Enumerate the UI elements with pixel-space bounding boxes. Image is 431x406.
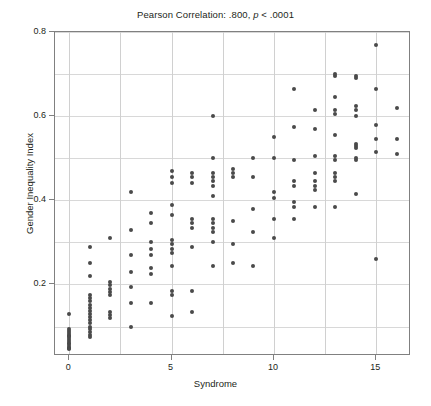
plot-area <box>54 31 410 355</box>
data-point <box>129 325 133 329</box>
data-point <box>88 261 92 265</box>
gridline-horizontal <box>55 32 409 33</box>
scatter-plot-figure: Pearson Correlation: .800, p < .0001 0.2… <box>0 0 431 406</box>
x-axis-tick-label: 0 <box>48 362 88 372</box>
data-point <box>333 74 337 78</box>
data-point <box>190 175 194 179</box>
data-point <box>67 312 71 316</box>
data-point <box>374 257 378 261</box>
data-point <box>170 175 174 179</box>
data-point <box>395 137 399 141</box>
data-point <box>333 158 337 162</box>
data-point <box>88 274 92 278</box>
data-point <box>251 175 255 179</box>
data-point <box>211 221 215 225</box>
data-point <box>211 179 215 183</box>
data-point <box>374 150 378 154</box>
data-point <box>170 213 174 217</box>
data-point <box>354 114 358 118</box>
data-point <box>129 190 133 194</box>
gridline-horizontal <box>55 327 409 328</box>
data-point <box>354 192 358 196</box>
data-point <box>292 87 296 91</box>
data-point <box>292 158 296 162</box>
data-point <box>149 272 153 276</box>
data-point <box>129 253 133 257</box>
data-point <box>313 127 317 131</box>
data-point <box>108 236 112 240</box>
data-point <box>354 158 358 162</box>
data-point <box>211 230 215 234</box>
data-point <box>129 285 133 289</box>
data-point <box>333 205 337 209</box>
data-point <box>292 200 296 204</box>
data-point <box>272 217 276 221</box>
data-point <box>374 123 378 127</box>
gridline-vertical <box>376 32 377 354</box>
data-point <box>272 135 276 139</box>
data-point <box>190 289 194 293</box>
data-point <box>190 226 194 230</box>
data-point <box>231 242 235 246</box>
data-point <box>354 146 358 150</box>
y-axis-tick-label: 0.8 <box>0 26 46 36</box>
x-axis-tick <box>68 355 69 360</box>
data-point <box>190 245 194 249</box>
data-point <box>88 335 92 339</box>
data-point <box>313 179 317 183</box>
gridline-horizontal <box>55 200 409 201</box>
data-point <box>149 253 153 257</box>
caption-text <box>0 399 431 406</box>
data-point <box>292 125 296 129</box>
gridline-vertical <box>223 32 224 354</box>
data-point <box>88 245 92 249</box>
data-point <box>149 301 153 305</box>
data-point <box>313 154 317 158</box>
x-axis-tick-label: 10 <box>253 362 293 372</box>
x-axis-tick <box>273 355 274 360</box>
y-axis-tick <box>49 283 54 284</box>
data-point <box>149 221 153 225</box>
x-axis-tick-label: 5 <box>151 362 191 372</box>
data-point <box>292 205 296 209</box>
data-point <box>108 316 112 320</box>
chart-title-prefix: Pearson Correlation: .800, <box>137 9 253 20</box>
data-point <box>149 240 153 244</box>
data-point <box>129 270 133 274</box>
figure-caption-sliver <box>0 399 431 406</box>
x-axis-tick <box>171 355 172 360</box>
data-point <box>170 293 174 297</box>
data-point <box>292 217 296 221</box>
data-point <box>374 43 378 47</box>
gridline-vertical <box>120 32 121 354</box>
data-point <box>354 108 358 112</box>
x-axis-tick-label: 15 <box>355 362 395 372</box>
data-point <box>292 184 296 188</box>
data-point <box>149 247 153 251</box>
data-point <box>211 240 215 244</box>
data-point <box>211 264 215 268</box>
data-point <box>190 181 194 185</box>
data-point <box>211 156 215 160</box>
gridline-vertical <box>172 32 173 354</box>
data-point <box>170 203 174 207</box>
y-axis-tick <box>49 199 54 200</box>
data-point <box>108 293 112 297</box>
data-point <box>170 169 174 173</box>
data-point <box>313 108 317 112</box>
data-point <box>211 184 215 188</box>
data-point <box>251 156 255 160</box>
data-point <box>149 266 153 270</box>
data-point <box>354 76 358 80</box>
data-point <box>395 152 399 156</box>
data-point <box>292 179 296 183</box>
data-point <box>395 106 399 110</box>
gridline-vertical <box>325 32 326 354</box>
data-point <box>190 310 194 314</box>
data-point <box>231 175 235 179</box>
data-point <box>170 242 174 246</box>
chart-title: Pearson Correlation: .800, p < .0001 <box>0 9 431 20</box>
data-point <box>129 228 133 232</box>
data-point <box>272 236 276 240</box>
data-point <box>129 301 133 305</box>
